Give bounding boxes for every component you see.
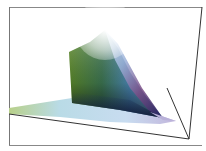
axis-right-vertical — [189, 7, 202, 139]
gamut-visualization — [0, 0, 206, 151]
gamut-white-point-glow — [75, 0, 135, 60]
axis-inner-short — [167, 88, 189, 139]
